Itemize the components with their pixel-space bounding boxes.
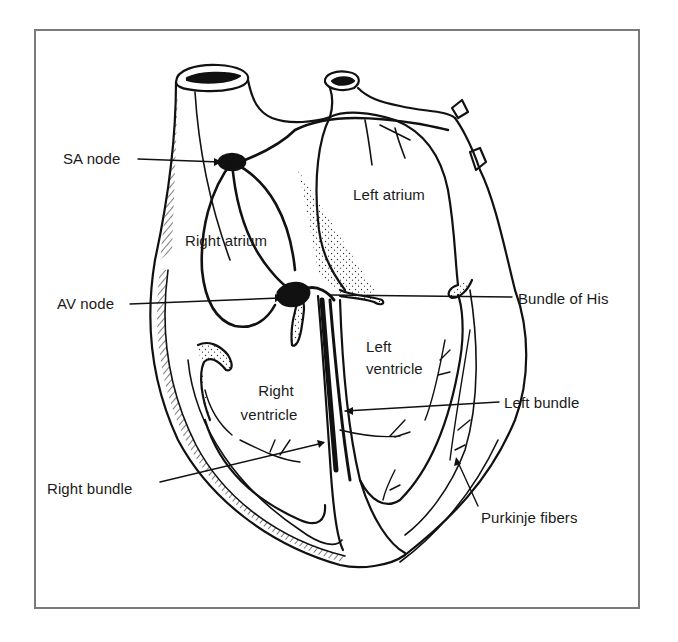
- left-ventricle-wall: [360, 295, 463, 504]
- label-right-bundle: Right bundle: [47, 480, 132, 497]
- label-right-atrium: Right atrium: [185, 232, 267, 249]
- label-av-node: AV node: [57, 295, 114, 312]
- label-left-ventricle-line1: Left: [366, 338, 391, 355]
- right-ventricle-papillary: [198, 343, 232, 420]
- label-purkinje-fibers: Purkinje fibers: [481, 509, 578, 526]
- av-node-leader: [130, 298, 280, 304]
- label-left-bundle: Left bundle: [504, 394, 579, 411]
- label-right-ventricle-line2: ventricle: [231, 406, 307, 423]
- av-node: [278, 283, 309, 306]
- sa-node-leader: [138, 159, 220, 162]
- heart-illustration: [0, 0, 678, 642]
- label-right-ventricle-line1: Right: [246, 382, 306, 399]
- label-bundle-of-his: Bundle of His: [518, 290, 609, 307]
- label-sa-node: SA node: [63, 150, 120, 167]
- interventricular-septum: [318, 296, 405, 553]
- label-left-atrium: Left atrium: [353, 186, 425, 203]
- left-bundle-leader: [345, 402, 499, 411]
- right-ventricle-wall: [205, 420, 325, 523]
- label-left-ventricle-line2: ventricle: [366, 360, 423, 377]
